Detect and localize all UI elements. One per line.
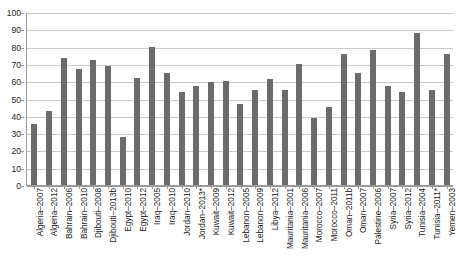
bar-slot (307, 13, 322, 185)
bar[interactable] (429, 90, 435, 185)
bar[interactable] (61, 58, 67, 185)
bar-slot (27, 13, 42, 185)
bar-slot (425, 13, 440, 185)
y-tick-mark-60 (21, 82, 24, 83)
bar-slot (115, 13, 130, 185)
x-axis-label: Jordan–2013* (199, 188, 207, 239)
bar[interactable] (296, 64, 302, 185)
y-tick-label-20: 20 (12, 147, 21, 156)
x-axis-label: Algeria–2007 (37, 188, 45, 236)
bar[interactable] (31, 124, 37, 185)
bar-slot (86, 13, 101, 185)
bar-slot (351, 13, 366, 185)
y-tick-mark-50 (21, 100, 24, 101)
bar-slot (336, 13, 351, 185)
bar-slot (233, 13, 248, 185)
x-axis-label: Oman–2007 (360, 188, 368, 233)
bar[interactable] (399, 92, 405, 185)
x-axis-label: Bahrain–2006 (66, 188, 74, 239)
x-axis-label: Mauritania–2001 (287, 188, 295, 249)
bar[interactable] (370, 50, 376, 185)
bar-slot (145, 13, 160, 185)
bar-slot (277, 13, 292, 185)
y-tick-mark-20 (21, 151, 24, 152)
bar-slot (410, 13, 425, 185)
y-tick-mark-30 (21, 134, 24, 135)
bar-chart: 0102030405060708090100 Algeria–2007Alger… (0, 0, 457, 259)
y-tick-label-50: 50 (12, 95, 21, 104)
y-tick-mark-90 (21, 30, 24, 31)
bar-slot (174, 13, 189, 185)
bar[interactable] (208, 82, 214, 185)
bar-slot (380, 13, 395, 185)
bar[interactable] (179, 92, 185, 185)
bar-slot (56, 13, 71, 185)
x-axis-label: Djibouti–2008 (95, 188, 103, 238)
bar-slot (439, 13, 454, 185)
x-axis-label: Jordan–2010 (184, 188, 192, 236)
y-tick-mark-10 (21, 169, 24, 170)
x-axis-label: Iraq–2010 (169, 188, 177, 225)
bar[interactable] (252, 90, 258, 185)
bar-slot (130, 13, 145, 185)
x-axis-label: Kuwait–2009 (213, 188, 221, 235)
bar[interactable] (237, 104, 243, 185)
bar[interactable] (355, 73, 361, 185)
bar-slot (204, 13, 219, 185)
y-tick-mark-0 (21, 186, 24, 187)
bar[interactable] (326, 107, 332, 185)
bar[interactable] (105, 66, 111, 185)
y-tick-label-40: 40 (12, 113, 21, 122)
bar[interactable] (90, 60, 96, 185)
plot-area (26, 13, 453, 186)
x-axis-label: Lebanon–2005 (243, 188, 251, 243)
bar[interactable] (341, 54, 347, 185)
bar[interactable] (385, 86, 391, 185)
bar[interactable] (76, 69, 82, 185)
bar[interactable] (193, 86, 199, 185)
x-axis-label: Morocco–2011 (331, 188, 339, 242)
x-axis-label: Lebanon–2009 (257, 188, 265, 243)
bar[interactable] (120, 137, 126, 185)
y-tick-label-80: 80 (12, 43, 21, 52)
x-axis-label: Bahrain–2010 (81, 188, 89, 239)
bar-slot (263, 13, 278, 185)
y-tick-label-10: 10 (12, 164, 21, 173)
y-tick-label-60: 60 (12, 78, 21, 87)
x-axis-label: Tunisia–2011* (434, 188, 442, 239)
x-axis-label: Egypt–2010 (125, 188, 133, 232)
bar-slot (248, 13, 263, 185)
y-tick-label-90: 90 (12, 26, 21, 35)
bar-slot (218, 13, 233, 185)
bar[interactable] (414, 33, 420, 185)
bar-slot (366, 13, 381, 185)
bar[interactable] (223, 81, 229, 185)
bar[interactable] (149, 47, 155, 185)
x-axis-label: Mauritania–2006 (302, 188, 310, 249)
x-axis-label: Yemen–2003 (449, 188, 457, 236)
bar-slot (189, 13, 204, 185)
bar[interactable] (311, 118, 317, 185)
y-axis: 0102030405060708090100 (0, 13, 24, 186)
x-axis-label: Oman–2011b (346, 188, 354, 237)
x-axis-label: Djibouti–2013b (110, 188, 118, 243)
bar[interactable] (46, 111, 52, 185)
x-axis-label: Iraq–2005 (154, 188, 162, 225)
x-axis-label: Algeria–2012 (51, 188, 59, 236)
bar-slot (42, 13, 57, 185)
y-tick-label-30: 30 (12, 130, 21, 139)
y-tick-mark-40 (21, 117, 24, 118)
x-axis-label: Egypt–2012 (140, 188, 148, 232)
bar[interactable] (267, 79, 273, 185)
bar[interactable] (444, 54, 450, 185)
bar[interactable] (282, 90, 288, 185)
y-tick-mark-80 (21, 48, 24, 49)
bar-slot (292, 13, 307, 185)
bar[interactable] (164, 73, 170, 185)
x-axis-label: Syria–2007 (390, 188, 398, 229)
bar-slot (321, 13, 336, 185)
bar-slot (160, 13, 175, 185)
x-axis-label: Syria–2012 (405, 188, 413, 229)
x-axis-labels: Algeria–2007Algeria–2012Bahrain–2006Bahr… (26, 188, 453, 259)
bar[interactable] (134, 78, 140, 185)
